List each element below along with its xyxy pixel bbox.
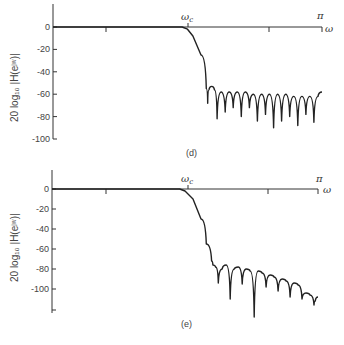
magnitude-curve-e bbox=[52, 189, 318, 317]
omega-axis-label-e: ω bbox=[323, 184, 331, 195]
pi-label-d: π bbox=[316, 10, 324, 21]
panel-d: 0-20-40-60-80-100 ωc π ω 20 log₁₀ |H(eʲʷ… bbox=[9, 4, 333, 158]
y-tick-label: -100 bbox=[32, 134, 50, 144]
y-tick-label: -60 bbox=[36, 244, 49, 254]
omega-axis-label-d: ω bbox=[325, 23, 333, 34]
y-tick-label: -20 bbox=[36, 204, 49, 214]
y-axis-label-d: 20 log₁₀ |H(eʲʷ)| bbox=[9, 53, 20, 122]
y-tick-label: -80 bbox=[36, 264, 49, 274]
y-axis-label-e: 20 log₁₀ |H(eʲʷ)| bbox=[9, 213, 20, 282]
pi-label-e: π bbox=[315, 173, 323, 184]
panel-label-e: (e) bbox=[181, 319, 192, 329]
y-tick-label: -20 bbox=[37, 44, 50, 54]
magnitude-curve-d bbox=[53, 27, 322, 128]
y-tick-label: 0 bbox=[45, 22, 50, 32]
y-tick-label: -40 bbox=[37, 67, 50, 77]
y-tick-label: -80 bbox=[37, 112, 50, 122]
y-tick-label: -40 bbox=[36, 224, 49, 234]
filter-response-figure: 0-20-40-60-80-100 ωc π ω 20 log₁₀ |H(eʲʷ… bbox=[0, 0, 344, 345]
panel-e: 0-20-40-60-80-100 ωc π ω 20 log₁₀ |H(eʲʷ… bbox=[9, 170, 331, 329]
y-tick-label: 0 bbox=[44, 184, 49, 194]
panel-label-d: (d) bbox=[186, 148, 197, 158]
y-tick-label: -100 bbox=[31, 284, 49, 294]
omega-c-label-e: ωc bbox=[181, 173, 193, 186]
omega-c-label-d: ωc bbox=[181, 11, 193, 24]
y-tick-label: -60 bbox=[37, 89, 50, 99]
